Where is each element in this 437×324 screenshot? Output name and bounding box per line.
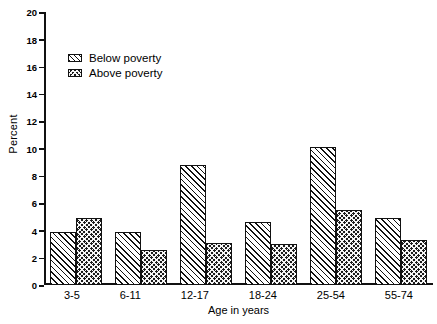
bar-25-54-above-poverty [336, 210, 362, 285]
y-tick-label: 2 [23, 253, 37, 264]
bar-3-5-below-poverty [50, 232, 76, 285]
legend-item-above-poverty: Above poverty [68, 65, 163, 80]
y-tick-label: 6 [23, 198, 37, 209]
bar-6-11-above-poverty [141, 250, 167, 285]
legend-label-below-poverty: Below poverty [89, 52, 161, 64]
y-tick-16: 16 [23, 58, 44, 76]
x-tick-label-3-5: 3-5 [64, 289, 80, 301]
y-tick-label: 14 [23, 89, 37, 100]
bar-18-24-above-poverty [271, 244, 297, 285]
bar-3-5-above-poverty [76, 218, 102, 285]
y-tick-10: 10 [23, 140, 44, 158]
y-tick-0: 0 [23, 276, 44, 294]
legend-swatch-below-poverty-icon [68, 54, 82, 62]
y-tick-label: 16 [23, 62, 37, 73]
y-tick-4: 4 [23, 221, 44, 239]
x-axis-title: Age in years [44, 304, 433, 316]
y-tick-label: 18 [23, 35, 37, 46]
legend-swatch-above-poverty-icon [68, 69, 82, 77]
y-tick-20: 20 [23, 3, 44, 21]
bar-group-55-74 [375, 12, 427, 285]
y-tick-18: 18 [23, 30, 44, 48]
x-tick-label-6-11: 6-11 [120, 289, 141, 301]
x-axis-ticks: 3-56-1112-1718-2425-5455-74 [44, 289, 433, 301]
bar-chart: Percent 02468101214161820 3-56-1112-1718… [0, 0, 437, 324]
y-tick-mark [39, 285, 44, 287]
bar-55-74-below-poverty [375, 218, 401, 285]
bar-12-17-above-poverty [206, 243, 232, 285]
legend-item-below-poverty: Below poverty [68, 50, 163, 65]
y-tick-label: 12 [23, 116, 37, 127]
x-tick-label-25-54: 25-54 [317, 289, 345, 301]
bar-group-12-17 [180, 12, 232, 285]
y-tick-14: 14 [23, 85, 44, 103]
chart-legend: Below poverty Above poverty [68, 50, 163, 80]
x-tick-label-18-24: 18-24 [249, 289, 277, 301]
bar-12-17-below-poverty [180, 165, 206, 285]
y-tick-2: 2 [23, 249, 44, 267]
bar-18-24-below-poverty [245, 222, 271, 285]
y-tick-label: 20 [23, 7, 37, 18]
y-tick-6: 6 [23, 194, 44, 212]
y-tick-label: 8 [23, 171, 37, 182]
y-tick-label: 10 [23, 144, 37, 155]
y-tick-12: 12 [23, 112, 44, 130]
bar-6-11-below-poverty [115, 232, 141, 285]
bar-group-25-54 [310, 12, 362, 285]
y-tick-label: 0 [23, 280, 37, 291]
x-tick-label-55-74: 55-74 [385, 289, 413, 301]
legend-label-above-poverty: Above poverty [89, 67, 163, 79]
bar-55-74-above-poverty [401, 240, 427, 285]
y-tick-label: 4 [23, 226, 37, 237]
y-tick-8: 8 [23, 167, 44, 185]
bar-25-54-below-poverty [310, 147, 336, 285]
x-tick-label-12-17: 12-17 [181, 289, 209, 301]
bar-group-18-24 [245, 12, 297, 285]
y-axis-title: Percent [7, 99, 19, 169]
